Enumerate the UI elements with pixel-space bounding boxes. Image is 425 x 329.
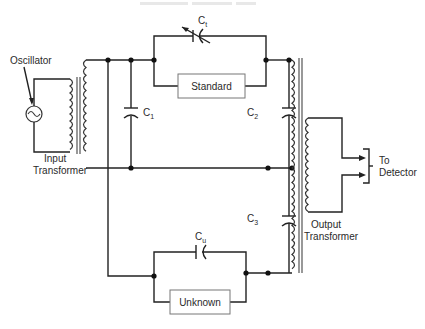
input-transformer-label-line2: Transformer: [33, 165, 88, 176]
oscillator-label: Oscillator: [10, 55, 52, 66]
oscillator: Oscillator: [10, 55, 70, 152]
oscillator-pointer-arrow-icon: [29, 98, 34, 105]
c2-label: C2: [247, 107, 258, 120]
capacitance-bridge-diagram: Oscillator Input Transformer: [0, 0, 425, 329]
standard-label: Standard: [191, 81, 232, 92]
capacitor-cu: Cu: [195, 231, 206, 259]
detector-output: To Detector: [308, 118, 417, 212]
capacitor-c1: C1: [124, 107, 154, 120]
detector-bracket: [363, 149, 369, 183]
detector-label-line2: Detector: [379, 167, 417, 178]
detector-arrow-top-icon: [359, 155, 366, 161]
c1-label: C1: [143, 107, 154, 120]
standard-component: Standard: [178, 74, 245, 98]
c3-label: C3: [247, 213, 258, 226]
detector-arrow-bottom-icon: [359, 172, 366, 178]
output-transformer-label-line2: Transformer: [304, 231, 359, 242]
ct-label: Ct: [198, 15, 207, 28]
oscillator-pointer-line: [24, 67, 32, 103]
input-transformer-label-line1: Input: [44, 153, 66, 164]
detector-label-line1: To: [379, 155, 390, 166]
unknown-component: Unknown: [170, 290, 230, 314]
variable-capacitor-ct: Ct: [182, 15, 210, 43]
cut-off-header-fragment: [140, 2, 256, 5]
cu-label: Cu: [195, 231, 206, 244]
output-transformer: Output Transformer: [292, 58, 359, 273]
output-transformer-label-line1: Output: [311, 219, 341, 230]
unknown-label: Unknown: [179, 297, 221, 308]
variable-arrow-icon: [182, 27, 189, 32]
